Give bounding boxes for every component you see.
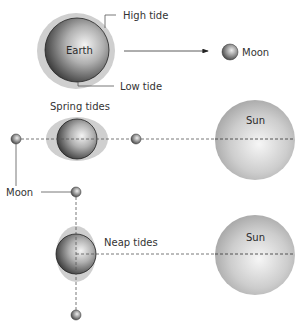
earth-label: Earth bbox=[66, 45, 93, 56]
neap-sun-sphere bbox=[215, 215, 295, 295]
high-tide-leader bbox=[105, 15, 116, 28]
neap-tides-label: Neap tides bbox=[104, 237, 158, 248]
neap-tides-panel: Neap tides Sun bbox=[56, 187, 295, 320]
moon-sphere bbox=[222, 44, 238, 60]
high-tide-label: High tide bbox=[123, 10, 168, 21]
neap-moon-top bbox=[71, 187, 81, 197]
spring-sun-sphere bbox=[215, 100, 295, 180]
moon-side-label: Moon bbox=[6, 187, 33, 198]
neap-sun-label: Sun bbox=[246, 232, 265, 243]
spring-tides-label: Spring tides bbox=[50, 101, 110, 112]
earth-moon-panel: Earth High tide Low tide Moon bbox=[37, 10, 269, 92]
spring-sun-label: Sun bbox=[246, 115, 265, 126]
moon-label: Moon bbox=[242, 47, 269, 58]
tides-diagram: Earth High tide Low tide Moon Spring tid… bbox=[0, 0, 302, 329]
spring-tides-panel: Spring tides Sun bbox=[11, 100, 295, 180]
neap-moon-bottom bbox=[71, 310, 81, 320]
spring-moon-left bbox=[11, 134, 21, 144]
spring-moon-right bbox=[131, 134, 141, 144]
low-tide-label: Low tide bbox=[120, 81, 162, 92]
